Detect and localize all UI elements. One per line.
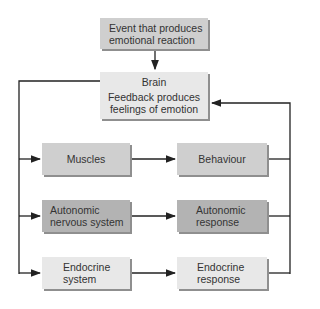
es-line2: system: [63, 273, 130, 285]
behaviour-label: Behaviour: [198, 153, 245, 165]
muscles-label: Muscles: [67, 153, 106, 165]
ar-line1: Autonomic: [196, 204, 267, 216]
er-line2: response: [197, 273, 267, 285]
muscles-box: Muscles: [42, 143, 130, 175]
autonomic-response-box: Autonomic response: [177, 200, 267, 232]
event-line1: Event that produces: [109, 22, 208, 34]
event-box: Event that produces emotional reaction: [100, 18, 208, 49]
brain-box: Brain Feedback produces feelings of emot…: [100, 72, 208, 119]
event-line2: emotional reaction: [109, 34, 208, 46]
er-line1: Endocrine: [197, 261, 267, 273]
endocrine-system-box: Endocrine system: [42, 257, 130, 289]
ar-line2: response: [196, 216, 267, 228]
brain-title: Brain: [142, 76, 167, 88]
endocrine-response-box: Endocrine response: [177, 257, 267, 289]
brain-line1: Feedback produces: [108, 91, 200, 103]
ans-line1: Autonomic: [50, 204, 130, 216]
es-line1: Endocrine: [63, 261, 130, 273]
behaviour-box: Behaviour: [177, 143, 267, 175]
brain-line2: feelings of emotion: [110, 103, 198, 115]
ans-line2: nervous system: [50, 216, 130, 228]
autonomic-nervous-system-box: Autonomic nervous system: [42, 200, 130, 232]
